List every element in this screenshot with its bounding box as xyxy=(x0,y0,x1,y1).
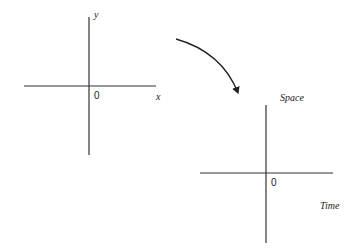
diagram-canvas xyxy=(0,0,357,250)
left-x-label: x xyxy=(156,92,160,102)
right-axes xyxy=(200,105,333,243)
left-origin-label: 0 xyxy=(94,91,100,101)
left-axes xyxy=(24,17,156,155)
right-space-label: Space xyxy=(280,93,304,103)
curved-arrow xyxy=(176,39,238,93)
right-time-label: Time xyxy=(320,201,339,211)
right-origin-label: 0 xyxy=(271,178,277,188)
left-y-label: y xyxy=(94,10,98,20)
